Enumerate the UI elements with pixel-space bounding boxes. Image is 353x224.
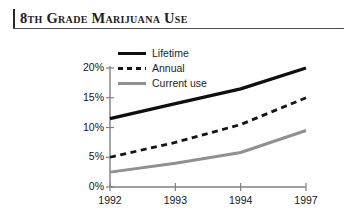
y-tick-label: 0% <box>62 180 104 192</box>
series-line-annual <box>110 98 306 158</box>
x-tick-label: 1997 <box>284 194 328 206</box>
y-tick-label: 5% <box>62 150 104 162</box>
x-tick-label: 1992 <box>88 194 132 206</box>
plot-area <box>0 0 353 224</box>
y-tick-label: 15% <box>62 91 104 103</box>
y-tick-label: 20% <box>62 61 104 73</box>
x-tick-label: 1993 <box>153 194 197 206</box>
y-tick-label: 10% <box>62 121 104 133</box>
series-line-current-use <box>110 130 306 172</box>
chart-figure: 8th Grade Marijuana Use Lifetime Annual … <box>0 0 353 224</box>
x-tick-label: 1994 <box>219 194 263 206</box>
series-lines <box>110 68 306 172</box>
